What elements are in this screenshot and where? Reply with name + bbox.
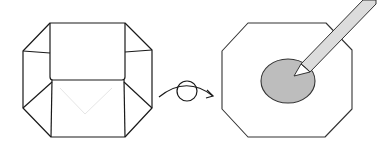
bottom-panel-left-edge <box>51 80 52 137</box>
left-upper-flap-line <box>23 51 50 53</box>
turn-over-arrow-icon <box>159 81 213 101</box>
bottom-panel-right-edge <box>124 80 125 137</box>
faint-crease-lines <box>60 88 112 114</box>
diagram-canvas: Flip the folded box over and color the c… <box>0 0 382 154</box>
left-lower-flap-line <box>23 82 52 108</box>
right-upper-flap-line <box>125 50 152 52</box>
folded-box <box>23 23 152 137</box>
right-lower-flap-line <box>124 82 152 108</box>
diagram-svg <box>0 0 382 154</box>
arrow-arc <box>159 86 213 97</box>
turn-over-circle <box>177 81 197 101</box>
top-panel-bottom-edge <box>50 77 125 80</box>
